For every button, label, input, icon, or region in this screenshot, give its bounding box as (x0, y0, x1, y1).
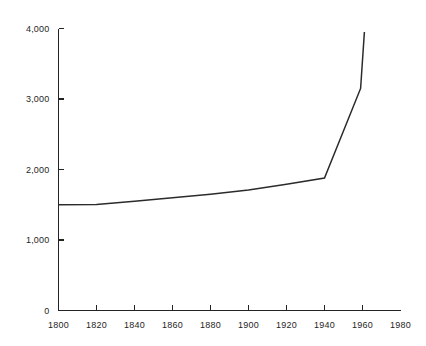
y-tick-label: 4,000 (26, 24, 50, 34)
line-chart: 01,0002,0003,0004,000 180018201840186018… (0, 0, 426, 346)
x-tick-label: 1860 (162, 320, 183, 330)
x-tick-label: 1940 (314, 320, 335, 330)
y-axis-tick-labels: 01,0002,0003,0004,000 (26, 24, 50, 316)
y-tick-label: 2,000 (26, 165, 50, 175)
x-tick-label: 1980 (390, 320, 411, 330)
x-tick-label: 1800 (48, 320, 69, 330)
y-tick-label: 1,000 (26, 235, 50, 245)
data-series-line (59, 32, 365, 205)
x-tick-label: 1840 (124, 320, 145, 330)
x-tick-label: 1880 (200, 320, 221, 330)
x-tick-label: 1820 (86, 320, 107, 330)
x-tick-label: 1920 (276, 320, 297, 330)
x-tick-label: 1900 (238, 320, 259, 330)
y-axis-ticks (59, 29, 65, 241)
x-tick-label: 1960 (352, 320, 373, 330)
x-axis-tick-labels: 1800182018401860188019001920194019601980 (48, 320, 411, 330)
chart-canvas: 01,0002,0003,0004,000 180018201840186018… (0, 0, 426, 346)
y-tick-label: 3,000 (26, 94, 50, 104)
x-axis-ticks (97, 305, 363, 311)
y-tick-label: 0 (44, 306, 49, 316)
